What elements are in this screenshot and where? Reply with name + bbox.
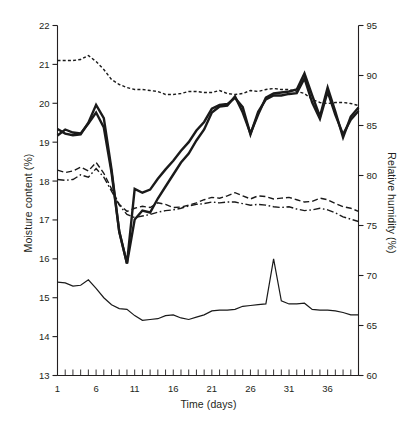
x-axis-tick-label: 26 [245, 383, 256, 394]
y-axis-left-title: Moisture content (%) [22, 123, 34, 283]
y-axis-right-tick-label: 95 [367, 20, 378, 31]
y-axis-left-tick-label: 13 [39, 370, 50, 381]
y-axis-left-tick-label: 18 [39, 176, 50, 187]
series-line-relative-humidity-main [58, 74, 359, 264]
y-axis-right-tick-label: 60 [367, 370, 378, 381]
y-axis-right-tick-label: 75 [367, 220, 378, 231]
y-axis-left-tick-label: 14 [39, 331, 50, 342]
y-axis-left-tick-label: 17 [39, 214, 50, 225]
x-axis-tick-label: 36 [322, 383, 333, 394]
y-axis-right-tick-label: 80 [367, 170, 378, 181]
y-axis-left-tick-label: 19 [39, 137, 50, 148]
chart-plot-area: 1314151617181920212260657075808590951611… [0, 0, 416, 434]
series-line-moisture-content-upper-dashed [58, 162, 359, 211]
y-axis-left-tick-label: 16 [39, 253, 50, 264]
y-axis-right-tick-label: 85 [367, 120, 378, 131]
x-axis-tick-label: 1 [55, 383, 60, 394]
x-axis-tick-label: 31 [284, 383, 295, 394]
y-axis-right-title: Relative humidity (%) [386, 123, 398, 283]
y-axis-right-tick-label: 90 [367, 70, 378, 81]
y-axis-left-tick-label: 21 [39, 59, 50, 70]
x-axis-tick-label: 6 [93, 383, 98, 394]
chart-figure: 1314151617181920212260657075808590951611… [0, 0, 416, 434]
y-axis-right-tick-label: 70 [367, 270, 378, 281]
x-axis-tick-label: 11 [130, 383, 140, 394]
x-axis-tick-label: 21 [207, 383, 218, 394]
y-axis-left-tick-label: 20 [39, 98, 50, 109]
series-line-moisture-content-lower-dashdot [58, 169, 359, 222]
x-axis-title: Time (days) [57, 398, 360, 410]
y-axis-left-tick-label: 22 [39, 20, 50, 31]
y-axis-right-tick-label: 65 [367, 320, 378, 331]
x-axis-tick-label: 16 [168, 383, 179, 394]
series-line-moisture-content-bottom [58, 259, 359, 320]
y-axis-left-tick-label: 15 [39, 292, 50, 303]
